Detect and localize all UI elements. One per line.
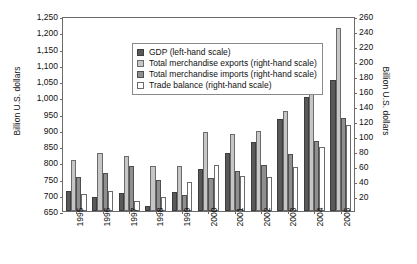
tick-mark-icon (354, 138, 357, 139)
legend-label: Total merchandise imports (right-hand sc… (149, 69, 317, 80)
y-tick-label-left: 1,050 (37, 77, 58, 87)
tick-mark-icon (354, 153, 357, 154)
y-tick-label-right: 220 (359, 42, 373, 52)
x-axis-tick-label: 2004 (315, 208, 325, 227)
y-tick-label-right: 160 (359, 87, 373, 97)
y-tick-label-left: 750 (44, 175, 58, 185)
chart-legend: GDP (left-hand scale)Total merchandise e… (132, 43, 323, 95)
x-label-cell: 1995 (62, 213, 89, 259)
x-axis-tick-label: 1995 (75, 208, 85, 227)
x-label-cell: 2005 (328, 213, 355, 259)
x-label-cell: 2000 (195, 213, 222, 259)
x-axis-tick-label: 2005 (342, 208, 352, 227)
x-axis-labels: 1995199619971998199920002001200220032004… (62, 213, 355, 259)
bar-chart: Billion U.S. dollars Billion U.S. dollar… (0, 0, 417, 264)
y-tick-label-right: 140 (359, 102, 373, 112)
legend-label: Trade balance (right-hand scale) (149, 80, 272, 91)
legend-swatch-icon (137, 82, 144, 89)
tick-mark-icon (354, 168, 357, 169)
y-tick-label-left: 1,250 (37, 12, 58, 22)
tick-mark-icon (354, 63, 357, 64)
bar-group (328, 18, 354, 211)
y-tick-label-left: 650 (44, 207, 58, 217)
x-axis-tick-label: 2001 (235, 208, 245, 227)
tick-mark-icon (354, 108, 357, 109)
y-tick-label-left: 1,200 (37, 28, 58, 38)
legend-item[interactable]: Total merchandise exports (right-hand sc… (137, 58, 317, 69)
y-tick-label-left: 950 (44, 110, 58, 120)
y-tick-label-right: 20 (359, 192, 368, 202)
plot-area: 6507007508008509009501,0001,0501,1001,15… (62, 17, 355, 212)
x-label-cell: 2003 (275, 213, 302, 259)
x-axis-tick-label: 2002 (262, 208, 272, 227)
y-axis-label-left: Billion U.S. dollars (12, 46, 22, 156)
tick-mark-icon (354, 93, 357, 94)
legend-item[interactable]: Trade balance (right-hand scale) (137, 80, 317, 91)
legend-item[interactable]: GDP (left-hand scale) (137, 47, 317, 58)
legend-label: Total merchandise exports (right-hand sc… (149, 58, 317, 69)
legend-label: GDP (left-hand scale) (149, 47, 231, 58)
x-label-cell: 1998 (142, 213, 169, 259)
y-tick-label-left: 850 (44, 142, 58, 152)
y-tick-label-right: 200 (359, 57, 373, 67)
x-axis-tick-label: 2003 (288, 208, 298, 227)
y-tick-label-right: 100 (359, 132, 373, 142)
legend-item[interactable]: Total merchandise imports (right-hand sc… (137, 69, 317, 80)
y-tick-label-right: 60 (359, 162, 368, 172)
tick-mark-icon (354, 33, 357, 34)
y-tick-label-left: 900 (44, 126, 58, 136)
tick-mark-icon (354, 48, 357, 49)
y-tick-label-right: 260 (359, 12, 373, 22)
tick-mark-icon (354, 183, 357, 184)
tick-mark-icon (354, 123, 357, 124)
y-tick-label-left: 1,000 (37, 93, 58, 103)
y-tick-label-left: 1,100 (37, 61, 58, 71)
y-tick-label-left: 800 (44, 158, 58, 168)
y-tick-label-right: 40 (359, 177, 368, 187)
x-label-cell: 2001 (222, 213, 249, 259)
y-tick-label-right: 120 (359, 117, 373, 127)
x-axis-tick-label: 1999 (182, 208, 192, 227)
y-tick-label-right: 180 (359, 72, 373, 82)
legend-swatch-icon (137, 49, 144, 56)
x-axis-tick-label: 1996 (102, 208, 112, 227)
tick-mark-icon (354, 78, 357, 79)
x-label-cell: 2004 (302, 213, 329, 259)
x-label-cell: 1999 (169, 213, 196, 259)
y-tick-label-right: 80 (359, 147, 368, 157)
y-tick-label-left: 700 (44, 191, 58, 201)
bar-bal (267, 177, 272, 211)
bar-bal (293, 167, 298, 211)
x-axis-tick-label: 1998 (155, 208, 165, 227)
bar-bal (240, 176, 245, 211)
bar-bal (346, 125, 351, 211)
bar-bal (214, 165, 219, 211)
x-label-cell: 1996 (89, 213, 116, 259)
y-tick-label-right: 240 (359, 27, 373, 37)
y-axis-label-right: Billion U.S. dollars (381, 46, 391, 156)
y-tick-label-left: 1,150 (37, 45, 58, 55)
bar-group (89, 18, 115, 211)
tick-mark-icon (354, 18, 357, 19)
x-axis-tick-label: 1997 (129, 208, 139, 227)
x-axis-tick-label: 2000 (209, 208, 219, 227)
legend-swatch-icon (137, 71, 144, 78)
bar-group (63, 18, 89, 211)
bar-bal (319, 147, 324, 211)
x-label-cell: 1997 (115, 213, 142, 259)
legend-swatch-icon (137, 60, 144, 67)
tick-mark-icon (354, 198, 357, 199)
x-label-cell: 2002 (248, 213, 275, 259)
